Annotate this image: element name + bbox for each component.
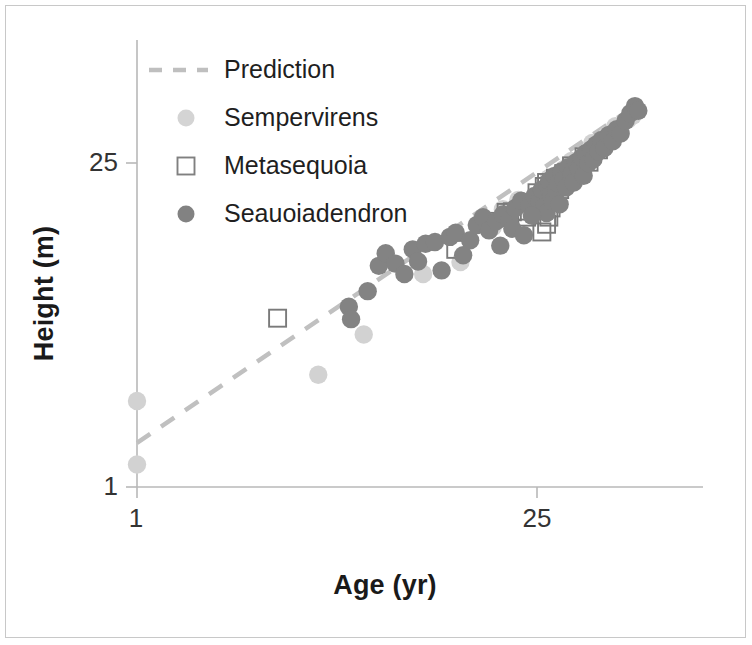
series-prediction — [137, 102, 642, 443]
chart-figure: Height (m) Age (yr) 25 1 1 25 Prediction… — [0, 0, 752, 645]
x-tick-label-1: 1 — [120, 503, 152, 534]
x-axis-title: Age (yr) — [285, 570, 485, 601]
legend-label-sequoiadendron: Seauoiadendron — [224, 199, 408, 228]
y-tick-label-1: 1 — [86, 471, 118, 502]
y-axis-title: Height (m) — [29, 204, 60, 384]
data-series-layer — [128, 97, 648, 474]
x-tick-label-25: 25 — [512, 503, 562, 534]
legend-label-metasequoia: Metasequoia — [224, 151, 367, 180]
legend-label-sempervirens: Sempervirens — [224, 103, 378, 132]
y-tick-label-25: 25 — [72, 147, 118, 178]
legend-label-prediction: Prediction — [224, 55, 335, 84]
legend-markers — [149, 70, 208, 223]
scatter-plot-canvas — [0, 0, 752, 645]
